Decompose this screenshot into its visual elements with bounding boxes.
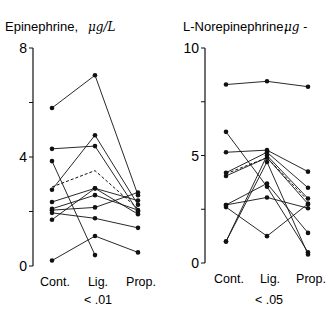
data-point bbox=[93, 144, 98, 149]
data-point bbox=[224, 203, 229, 208]
x-category-label: Cont. bbox=[40, 275, 70, 289]
data-point bbox=[265, 79, 270, 84]
data-point bbox=[93, 186, 98, 191]
data-point bbox=[136, 208, 141, 213]
subject-series bbox=[224, 160, 311, 257]
subject-series bbox=[224, 79, 311, 89]
epinephrine-p-value: < .01 bbox=[84, 293, 112, 307]
data-point bbox=[224, 82, 229, 87]
epinephrine-series bbox=[50, 73, 141, 263]
data-point bbox=[93, 253, 98, 258]
data-point bbox=[93, 205, 98, 210]
y-tick-label: 8 bbox=[19, 40, 27, 56]
data-point bbox=[93, 133, 98, 138]
data-point bbox=[93, 216, 98, 221]
data-point bbox=[265, 234, 270, 239]
epinephrine-unit: μg/L bbox=[88, 20, 116, 34]
data-point bbox=[136, 250, 141, 255]
series-line bbox=[226, 204, 308, 236]
data-point bbox=[306, 231, 311, 236]
data-point bbox=[136, 212, 141, 217]
data-point bbox=[93, 73, 98, 78]
chart-canvas: Epinephrine, μg/L 048 Cont.Lig.Prop. < .… bbox=[0, 0, 332, 314]
subject-series bbox=[50, 211, 141, 231]
data-point bbox=[265, 181, 270, 186]
x-category-label: Prop. bbox=[296, 272, 326, 286]
data-point bbox=[50, 187, 55, 192]
series-line bbox=[226, 183, 308, 232]
figure: Epinephrine, μg/L 048 Cont.Lig.Prop. < .… bbox=[0, 0, 332, 314]
data-point bbox=[265, 195, 270, 200]
data-point bbox=[93, 193, 98, 198]
y-tick-label: 4 bbox=[19, 149, 27, 165]
series-line bbox=[52, 146, 138, 211]
y-tick-label: 0 bbox=[191, 255, 199, 271]
data-point bbox=[306, 185, 311, 190]
subject-series bbox=[50, 234, 141, 263]
subject-series bbox=[50, 144, 141, 214]
y-tick-label: 0 bbox=[19, 258, 27, 274]
norepinephrine-panel: L-Norepinephrine, μg - 0510 Cont.Lig.Pro… bbox=[183, 19, 326, 307]
data-point bbox=[50, 200, 55, 205]
data-point bbox=[224, 130, 229, 135]
x-category-label: Cont. bbox=[214, 272, 244, 286]
data-point bbox=[306, 202, 311, 207]
y-tick-label: 5 bbox=[191, 148, 199, 164]
epinephrine-x-labels: Cont.Lig.Prop. bbox=[40, 275, 156, 289]
data-point bbox=[136, 198, 141, 203]
data-point bbox=[265, 160, 270, 165]
epinephrine-y-axis: 048 bbox=[19, 40, 33, 274]
epinephrine-panel: Epinephrine, μg/L 048 Cont.Lig.Prop. < .… bbox=[5, 19, 156, 307]
norepinephrine-series bbox=[224, 79, 311, 257]
data-point bbox=[50, 106, 55, 111]
data-point bbox=[306, 206, 311, 211]
norepinephrine-title: L-Norepinephrine, bbox=[183, 19, 287, 34]
y-tick-label: 10 bbox=[183, 40, 199, 56]
data-point bbox=[50, 217, 55, 222]
data-point bbox=[50, 211, 55, 216]
subject-series bbox=[224, 195, 311, 210]
x-category-label: Lig. bbox=[88, 275, 108, 289]
norepinephrine-unit: μg - bbox=[284, 20, 307, 34]
data-point bbox=[136, 190, 141, 195]
epinephrine-title: Epinephrine, bbox=[5, 19, 78, 34]
x-category-label: Prop. bbox=[126, 275, 156, 289]
data-point bbox=[224, 239, 229, 244]
norepinephrine-x-labels: Cont.Lig.Prop. bbox=[214, 272, 326, 286]
data-point bbox=[224, 174, 229, 179]
data-point bbox=[50, 258, 55, 263]
data-point bbox=[306, 252, 311, 257]
data-point bbox=[265, 153, 270, 158]
data-point bbox=[50, 147, 55, 152]
data-point bbox=[306, 169, 311, 174]
norepinephrine-y-axis: 0510 bbox=[183, 40, 205, 271]
data-point bbox=[136, 226, 141, 231]
data-point bbox=[93, 234, 98, 239]
data-point bbox=[50, 159, 55, 164]
series-line bbox=[226, 162, 308, 254]
data-point bbox=[136, 202, 141, 207]
data-point bbox=[224, 150, 229, 155]
data-point bbox=[306, 84, 311, 89]
x-category-label: Lig. bbox=[260, 272, 280, 286]
norepinephrine-p-value: < .05 bbox=[255, 293, 283, 307]
